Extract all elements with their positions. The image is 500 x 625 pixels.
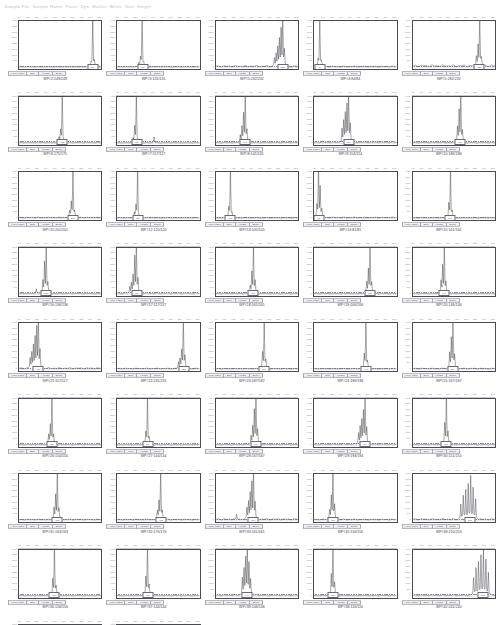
table-column-header[interactable]: Size xyxy=(420,373,432,378)
table-column-header[interactable]: Score xyxy=(347,449,361,454)
table-column-header[interactable]: Allele Label xyxy=(205,222,223,227)
table-column-header[interactable]: Size xyxy=(321,298,333,303)
allele-call-box[interactable]: 187 xyxy=(258,366,269,372)
table-column-header[interactable]: Size xyxy=(321,373,333,378)
table-column-header[interactable]: Allele Label xyxy=(205,147,223,152)
trace-plot[interactable]: 84 xyxy=(313,20,397,70)
trace-plot[interactable]: 161 xyxy=(412,171,496,221)
electropherogram-panel[interactable]: 8010012014016018020022024026040003500300… xyxy=(301,13,399,89)
electropherogram-panel[interactable]: 8010012014016018020022024026040003500300… xyxy=(6,542,104,618)
table-column-header[interactable]: Allele Label xyxy=(303,147,321,152)
electropherogram-panel[interactable]: 8010012014016018020022024026040003500300… xyxy=(400,542,498,618)
table-column-header[interactable]: Allele Label xyxy=(402,147,420,152)
electropherogram-panel[interactable]: 8010012014016018020022024026040003500300… xyxy=(104,542,202,618)
trace-plot[interactable]: 196 xyxy=(313,322,397,372)
table-column-header[interactable]: Height xyxy=(136,600,150,605)
electropherogram-panel[interactable]: 8010012014016018020022024026040003500300… xyxy=(301,391,399,467)
trace-plot[interactable]: 167 xyxy=(412,322,496,372)
table-column-header[interactable]: Allele Label xyxy=(8,524,26,529)
table-column-header[interactable]: Size xyxy=(26,373,38,378)
table-column-header[interactable]: Height xyxy=(432,373,446,378)
table-column-header[interactable]: Height xyxy=(38,222,52,227)
trace-plot[interactable]: 187 xyxy=(215,322,299,372)
allele-call-box[interactable]: 120 xyxy=(132,215,143,221)
trace-plot[interactable]: 141 xyxy=(215,96,299,146)
table-column-header[interactable]: Score xyxy=(150,373,164,378)
electropherogram-panel[interactable]: 8010012014016018020022024026040003500300… xyxy=(203,89,301,165)
trace-plot[interactable]: 156 xyxy=(18,549,102,599)
table-column-header[interactable]: Size xyxy=(124,600,136,605)
table-column-header[interactable]: Allele Label xyxy=(106,600,124,605)
table-column-header[interactable]: Score xyxy=(52,524,66,529)
table-column-header[interactable]: Height xyxy=(333,71,347,76)
table-column-header[interactable]: Allele Label xyxy=(303,449,321,454)
table-column-header[interactable]: Allele Label xyxy=(303,600,321,605)
allele-call-box[interactable]: 231 xyxy=(178,366,189,372)
allele-call-box[interactable]: 146 xyxy=(438,290,449,296)
table-column-header[interactable]: Score xyxy=(347,71,361,76)
table-column-header[interactable]: Height xyxy=(38,71,52,76)
allele-call-box[interactable]: 150 xyxy=(46,441,57,447)
table-column-header[interactable]: Allele Label xyxy=(402,524,420,529)
trace-plot[interactable]: 249 xyxy=(18,20,102,70)
table-column-header[interactable]: Size xyxy=(26,71,38,76)
trace-plot[interactable]: 151 xyxy=(412,398,496,448)
table-column-header[interactable]: Size xyxy=(223,600,235,605)
table-column-header[interactable]: Allele Label xyxy=(402,298,420,303)
table-column-header[interactable]: Score xyxy=(249,373,263,378)
table-column-header[interactable]: Allele Label xyxy=(303,71,321,76)
table-column-header[interactable]: Size xyxy=(26,524,38,529)
table-column-header[interactable]: Height xyxy=(333,600,347,605)
electropherogram-panel[interactable]: 8010012014016018020022024026040003500300… xyxy=(301,542,399,618)
table-column-header[interactable]: Height xyxy=(38,449,52,454)
table-column-header[interactable]: Height xyxy=(136,298,150,303)
table-column-header[interactable]: Size xyxy=(124,222,136,227)
table-column-header[interactable]: Size xyxy=(223,71,235,76)
electropherogram-panel[interactable]: 8010012014016018020022024026040003500300… xyxy=(400,391,498,467)
table-column-header[interactable]: Allele Label xyxy=(8,600,26,605)
table-column-header[interactable]: Score xyxy=(150,71,164,76)
electropherogram-panel[interactable]: 8010012014016018020022024026040003500300… xyxy=(301,164,399,240)
table-column-header[interactable]: Allele Label xyxy=(205,524,223,529)
table-column-header[interactable]: Allele Label xyxy=(8,147,26,152)
trace-plot[interactable]: 194 xyxy=(313,398,397,448)
trace-plot[interactable]: 144 xyxy=(116,398,200,448)
allele-call-box[interactable]: 116 xyxy=(328,592,339,598)
table-column-header[interactable]: Allele Label xyxy=(8,449,26,454)
electropherogram-panel[interactable]: 8010012014016018020022024026040003500300… xyxy=(104,89,202,165)
table-column-header[interactable]: Size xyxy=(321,449,333,454)
table-column-header[interactable]: Score xyxy=(347,524,361,529)
electropherogram-panel[interactable]: 8010012014016018020022024026040003500300… xyxy=(6,164,104,240)
table-column-header[interactable]: Score xyxy=(52,373,66,378)
table-column-header[interactable]: Height xyxy=(136,147,150,152)
table-column-header[interactable]: Allele Label xyxy=(8,298,26,303)
table-column-header[interactable]: Height xyxy=(136,71,150,76)
electropherogram-panel[interactable]: 8010012014016018020022024026040003500300… xyxy=(400,240,498,316)
table-column-header[interactable]: Height xyxy=(333,373,347,378)
table-column-header[interactable]: Size xyxy=(321,222,333,227)
table-column-header[interactable]: Size xyxy=(223,373,235,378)
table-column-header[interactable]: Size xyxy=(26,298,38,303)
table-column-header[interactable]: Score xyxy=(52,222,66,227)
table-column-header[interactable]: Height xyxy=(333,298,347,303)
allele-call-box[interactable]: 241 xyxy=(478,592,489,598)
table-column-header[interactable]: Score xyxy=(249,524,263,529)
table-column-header[interactable]: Score xyxy=(347,600,361,605)
table-column-header[interactable]: Size xyxy=(420,298,432,303)
trace-plot[interactable]: 105 xyxy=(215,171,299,221)
table-column-header[interactable]: Height xyxy=(432,147,446,152)
table-column-header[interactable]: Score xyxy=(150,600,164,605)
table-column-header[interactable]: Size xyxy=(26,449,38,454)
electropherogram-panel[interactable]: 8010012014016018020022024026040003500300… xyxy=(203,13,301,89)
trace-plot[interactable]: 131 xyxy=(116,20,200,70)
table-column-header[interactable]: Size xyxy=(321,71,333,76)
electropherogram-panel[interactable]: 8010012014016018020022024026040003500300… xyxy=(104,391,202,467)
electropherogram-panel[interactable]: 8010012014016018020022024026040003500300… xyxy=(301,466,399,542)
table-column-header[interactable]: Allele Label xyxy=(106,147,124,152)
table-column-header[interactable]: Size xyxy=(26,222,38,227)
table-column-header[interactable]: Size xyxy=(321,600,333,605)
allele-call-box[interactable]: 232 xyxy=(277,64,288,70)
table-column-header[interactable]: Allele Label xyxy=(402,71,420,76)
table-column-header[interactable]: Size xyxy=(223,449,235,454)
table-column-header[interactable]: Size xyxy=(321,147,333,152)
